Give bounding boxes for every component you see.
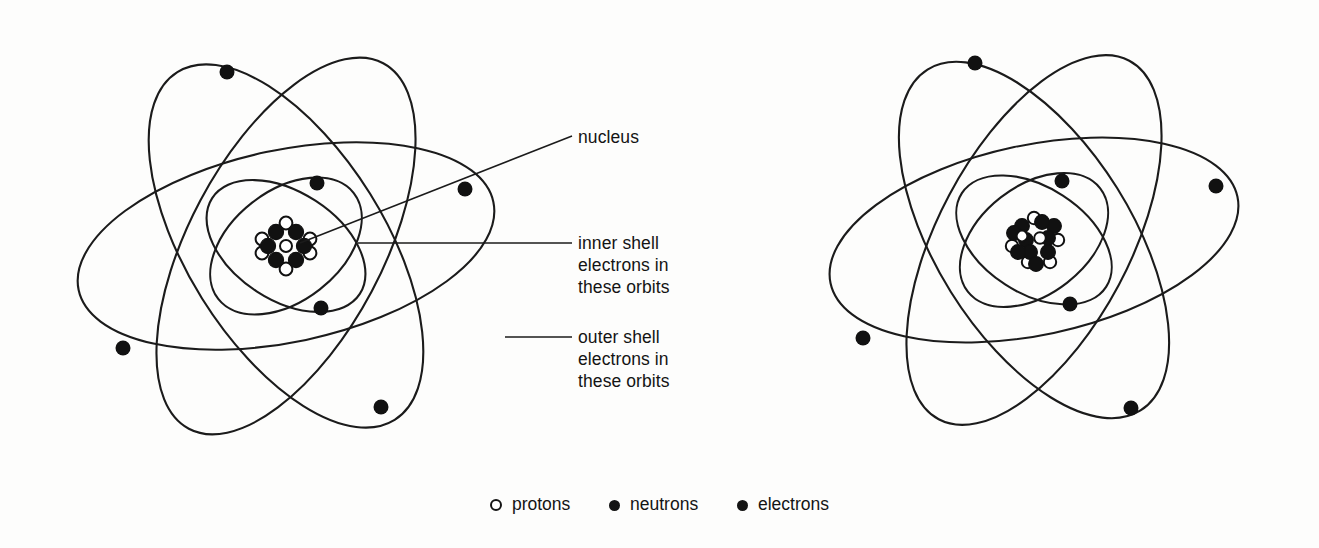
- proton: [1034, 232, 1046, 244]
- neutron: [288, 224, 303, 239]
- legend-label-neutrons: neutrons: [630, 494, 698, 515]
- neutron: [1035, 215, 1050, 230]
- electron: [374, 400, 389, 415]
- proton: [1017, 231, 1028, 242]
- legend-label-electrons: electrons: [758, 494, 829, 515]
- electron: [314, 301, 329, 316]
- filled-circle-icon: [737, 500, 748, 511]
- leader-lines: [300, 136, 572, 337]
- electron: [1055, 174, 1070, 189]
- legend: protons neutrons electrons: [0, 494, 1319, 515]
- electron: [1209, 179, 1224, 194]
- neutron: [1041, 245, 1056, 260]
- neutron: [1029, 257, 1044, 272]
- diagram-canvas: nucleus inner shell electrons in these o…: [0, 0, 1319, 548]
- neutron: [268, 252, 283, 267]
- electron: [1063, 297, 1078, 312]
- right-atom: [811, 16, 1257, 465]
- legend-item-electrons: electrons: [737, 494, 829, 515]
- right-atom-nucleus: [1006, 212, 1064, 272]
- electron: [458, 182, 473, 197]
- electron: [116, 341, 131, 356]
- electron: [1124, 401, 1139, 416]
- label-inner-shell: inner shell electrons in these orbits: [578, 232, 670, 298]
- neutron: [260, 238, 275, 253]
- left-atom-nucleus: [256, 217, 317, 276]
- neutron: [1011, 245, 1026, 260]
- legend-label-protons: protons: [512, 494, 570, 515]
- label-nucleus: nucleus: [578, 126, 639, 148]
- electron: [968, 56, 983, 71]
- legend-item-protons: protons: [490, 494, 570, 515]
- left-atom: [59, 18, 514, 475]
- electron: [220, 65, 235, 80]
- filled-circle-icon: [609, 500, 620, 511]
- label-outer-shell: outer shell electrons in these orbits: [578, 326, 670, 392]
- electron: [310, 176, 325, 191]
- electron: [856, 331, 871, 346]
- neutron: [268, 224, 283, 239]
- neutron: [288, 252, 303, 267]
- legend-item-neutrons: neutrons: [609, 494, 698, 515]
- open-circle-icon: [490, 499, 502, 511]
- proton: [280, 240, 292, 252]
